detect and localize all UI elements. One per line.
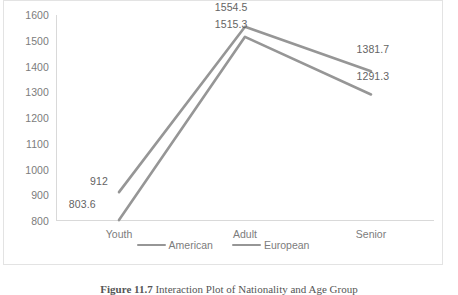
legend-item-american[interactable]: American: [137, 239, 213, 251]
y-axis-tick-label: 1100: [26, 138, 49, 150]
y-axis-tick-label: 1000: [25, 164, 49, 176]
y-axis-tick-label: 800: [31, 215, 49, 227]
chart-legend: American European: [4, 239, 442, 251]
data-label-european-senior: 1291.3: [357, 70, 390, 82]
figure-caption-text: Interaction Plot of Nationality and Age …: [155, 283, 357, 295]
legend-item-european[interactable]: European: [232, 239, 310, 251]
legend-item-label: American: [169, 239, 213, 251]
series-line-european: [119, 37, 371, 220]
data-label-european-adult: 1515.3: [215, 18, 248, 30]
data-label-european-youth: 803.6: [69, 198, 96, 210]
legend-line-swatch-icon: [137, 244, 166, 247]
y-axis-tick-label: 1200: [25, 112, 49, 124]
legend-item-label: European: [264, 239, 310, 251]
data-label-american-senior: 1381.7: [357, 43, 390, 55]
legend-line-swatch-icon: [232, 244, 261, 247]
data-label-american-youth: 912: [90, 175, 108, 187]
plot-area: 1600 1500 1400 1300 1200 1100 1000 900 8…: [56, 15, 434, 221]
y-axis-tick-label: 900: [31, 189, 49, 201]
figure-caption-label: Figure 11.7: [100, 283, 152, 295]
figure-caption: Figure 11.7 Interaction Plot of National…: [0, 283, 458, 295]
data-label-american-adult: 1554.5: [215, 1, 248, 13]
y-axis-tick-label: 1500: [25, 35, 49, 47]
y-axis-tick-label: 1400: [25, 61, 49, 73]
y-axis-tick-label: 1300: [25, 86, 49, 98]
y-axis-tick-label: 1600: [25, 9, 49, 21]
chart-container: 1600 1500 1400 1300 1200 1100 1000 900 8…: [3, 0, 443, 265]
